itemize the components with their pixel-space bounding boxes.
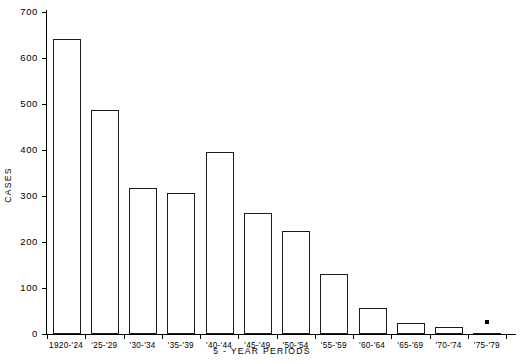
- dot-marker-icon: [484, 320, 489, 325]
- y-axis-tick-label: 500: [20, 98, 38, 109]
- x-axis-tick-label: 1920-'24: [49, 341, 83, 350]
- bar: [321, 275, 348, 335]
- x-axis-tick-label: '65-'69: [397, 341, 423, 350]
- x-axis-tick-label: '55-'59: [321, 341, 347, 350]
- bar: [360, 309, 387, 335]
- y-axis-tick-label: 400: [20, 144, 38, 155]
- chart-canvas: 0100200300400500600700 1920-'24'25-'29'3…: [0, 0, 523, 364]
- y-axis-tick-label: 300: [20, 190, 38, 201]
- y-axis-tick-labels: 0100200300400500600700: [20, 6, 38, 339]
- bar: [92, 111, 119, 335]
- bar: [245, 214, 272, 335]
- bar: [168, 194, 195, 335]
- x-axis-title: 5 - YEAR PERIODS: [213, 346, 311, 356]
- x-axis-tick-label: '60-'64: [359, 341, 385, 350]
- bar: [54, 40, 81, 335]
- y-axis-tick-label: 0: [32, 328, 38, 339]
- annotation-markers: [484, 320, 489, 325]
- bar: [436, 328, 463, 335]
- bar-chart: 0100200300400500600700 1920-'24'25-'29'3…: [0, 0, 523, 364]
- bar: [283, 232, 310, 335]
- bar: [207, 153, 234, 335]
- y-axis-title: CASES: [3, 167, 13, 203]
- x-axis-tick-label: '25-'29: [91, 341, 117, 350]
- y-axis-tick-label: 200: [20, 236, 38, 247]
- x-axis-tick-label: '75-'79: [474, 341, 500, 350]
- x-axis-tick-label: '35-'39: [168, 341, 194, 350]
- x-axis-tick-label: '70-'74: [436, 341, 462, 350]
- bar: [398, 324, 425, 335]
- y-axis-tick-label: 100: [20, 282, 38, 293]
- bar-series: [54, 40, 501, 335]
- y-axis-tick-label: 600: [20, 52, 38, 63]
- bar: [130, 189, 157, 335]
- y-axis-tick-label: 700: [20, 6, 38, 17]
- x-axis-tick-label: '30-'34: [130, 341, 156, 350]
